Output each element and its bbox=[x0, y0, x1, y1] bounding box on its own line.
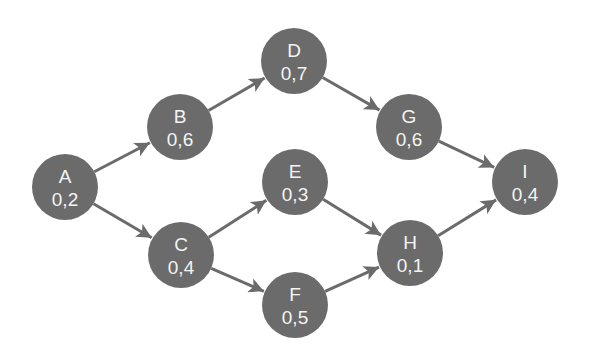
edge-d-g bbox=[323, 77, 380, 110]
node-name: A bbox=[59, 166, 72, 187]
edge-b-d bbox=[209, 78, 265, 110]
node-value: 0,4 bbox=[512, 184, 539, 205]
node-circle bbox=[148, 222, 214, 288]
node-name: C bbox=[174, 234, 188, 255]
node-value: 0,6 bbox=[167, 129, 193, 150]
node-f: F0,5 bbox=[262, 272, 328, 338]
node-name: G bbox=[402, 106, 417, 127]
node-e: E0,3 bbox=[262, 149, 328, 215]
node-value: 0,1 bbox=[397, 255, 423, 276]
node-circle bbox=[262, 149, 328, 215]
node-circle bbox=[262, 272, 328, 338]
node-d: D0,7 bbox=[261, 28, 327, 94]
node-circle bbox=[261, 28, 327, 94]
nodes-layer: A0,2B0,6C0,4D0,7E0,3F0,5G0,6H0,1I0,4 bbox=[32, 28, 558, 338]
edge-g-i bbox=[439, 141, 494, 167]
edge-c-e bbox=[209, 200, 267, 237]
node-name: E bbox=[289, 161, 302, 182]
node-circle bbox=[377, 220, 443, 286]
node-a: A0,2 bbox=[32, 154, 98, 220]
node-value: 0,7 bbox=[281, 63, 307, 84]
node-value: 0,2 bbox=[52, 189, 78, 210]
node-circle bbox=[492, 149, 558, 215]
node-c: C0,4 bbox=[148, 222, 214, 288]
edge-e-h bbox=[323, 199, 381, 235]
node-circle bbox=[376, 94, 442, 160]
edge-c-f bbox=[211, 268, 264, 291]
edge-f-h bbox=[325, 267, 379, 291]
node-i: I0,4 bbox=[492, 149, 558, 215]
node-name: D bbox=[287, 40, 301, 61]
node-value: 0,5 bbox=[282, 307, 308, 328]
edge-h-i bbox=[438, 200, 496, 236]
network-diagram: A0,2B0,6C0,4D0,7E0,3F0,5G0,6H0,1I0,4 bbox=[0, 0, 590, 364]
node-value: 0,4 bbox=[168, 257, 195, 278]
node-value: 0,6 bbox=[396, 129, 422, 150]
node-h: H0,1 bbox=[377, 220, 443, 286]
node-g: G0,6 bbox=[376, 94, 442, 160]
edge-a-b bbox=[94, 143, 150, 172]
edge-a-c bbox=[93, 204, 151, 238]
node-name: H bbox=[403, 232, 417, 253]
node-b: B0,6 bbox=[147, 94, 213, 160]
node-circle bbox=[32, 154, 98, 220]
node-name: F bbox=[289, 284, 301, 305]
node-circle bbox=[147, 94, 213, 160]
node-name: I bbox=[522, 161, 527, 182]
node-name: B bbox=[174, 106, 187, 127]
node-value: 0,3 bbox=[282, 184, 308, 205]
